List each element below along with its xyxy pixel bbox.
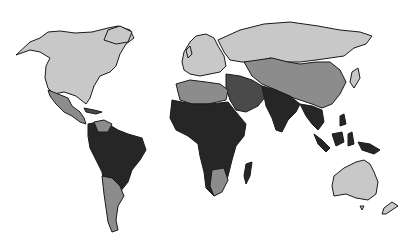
region-madagascar — [244, 162, 252, 184]
region-indonesia-borneo — [332, 132, 344, 146]
region-southeast-asia — [300, 104, 324, 130]
region-new-zealand — [382, 202, 398, 214]
region-russia — [218, 22, 372, 62]
region-north-africa — [176, 80, 228, 104]
region-philippines — [340, 114, 346, 126]
region-japan — [350, 68, 360, 88]
region-australia — [332, 160, 378, 200]
world-choropleth-map — [0, 0, 401, 237]
region-tasmania — [360, 206, 364, 210]
region-southern-africa — [210, 168, 228, 196]
region-sub-saharan-africa — [170, 100, 246, 196]
region-indonesia-sulawesi — [348, 132, 354, 146]
region-papua — [358, 142, 380, 154]
region-caribbean — [84, 108, 102, 114]
region-indonesia-sumatra — [314, 134, 330, 152]
